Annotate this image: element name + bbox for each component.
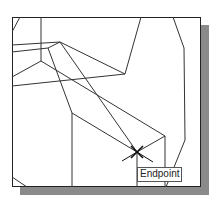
drawing-lines [12,17,185,187]
drawing-line[interactable] [12,177,27,187]
drawing-line[interactable] [12,74,125,86]
drawing-line[interactable] [184,48,185,140]
drawing-line[interactable] [72,113,137,152]
drawing-line[interactable] [41,61,165,136]
osnap-endpoint-tooltip: Endpoint [137,167,182,182]
drawing-line[interactable] [137,136,165,152]
drawing-line[interactable] [12,42,60,45]
drawing-line[interactable] [60,42,125,74]
drawing-line[interactable] [12,17,20,32]
drawing-line[interactable] [12,61,41,77]
drawing-line[interactable] [173,17,184,48]
drawing-line[interactable] [125,17,141,74]
drawing-line[interactable] [12,48,48,52]
cad-drawing-canvas[interactable] [0,0,219,208]
